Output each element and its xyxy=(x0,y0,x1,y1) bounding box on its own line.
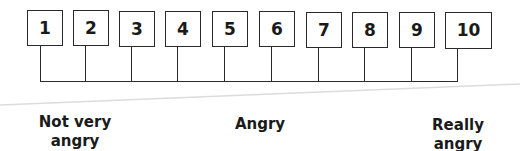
connector-stem xyxy=(271,47,272,81)
rating-value: 9 xyxy=(411,20,423,40)
anchor-high-line2: angry xyxy=(420,135,496,151)
connector-stem xyxy=(177,47,178,81)
rating-box-3[interactable]: 3 xyxy=(119,11,155,47)
anchor-mid-line1: Angry xyxy=(220,115,300,134)
connector-stem xyxy=(457,49,458,82)
rating-box-5[interactable]: 5 xyxy=(212,11,248,47)
anchor-low-line2: angry xyxy=(30,132,120,151)
rating-value: 3 xyxy=(131,19,143,39)
rating-box-8[interactable]: 8 xyxy=(352,12,388,48)
anchor-high-line1: Really xyxy=(420,116,496,135)
rating-box-1[interactable]: 1 xyxy=(27,10,63,46)
rating-box-9[interactable]: 9 xyxy=(399,12,435,48)
rating-box-4[interactable]: 4 xyxy=(165,11,201,47)
connector-baseline xyxy=(40,81,458,82)
anchor-label-mid: Angry xyxy=(220,115,300,134)
anchor-label-low: Not very angry xyxy=(30,113,120,151)
connector-stem xyxy=(318,48,319,81)
connector-stem xyxy=(411,48,412,82)
rating-value: 4 xyxy=(177,19,189,39)
rating-value: 5 xyxy=(224,19,236,39)
rating-value: 6 xyxy=(271,19,283,39)
connector-stem xyxy=(224,47,225,81)
anchor-label-high: Really angry xyxy=(420,116,496,151)
rating-box-7[interactable]: 7 xyxy=(306,12,342,48)
rating-value: 10 xyxy=(457,20,481,40)
connector-stem xyxy=(131,47,132,81)
connector-stem xyxy=(85,46,86,81)
rating-value: 2 xyxy=(85,18,97,38)
rating-box-6[interactable]: 6 xyxy=(259,11,295,47)
rating-value: 1 xyxy=(39,18,51,38)
rating-value: 7 xyxy=(318,20,330,40)
rating-box-10[interactable]: 10 xyxy=(445,12,492,49)
anchor-low-line1: Not very xyxy=(30,113,120,132)
rating-box-2[interactable]: 2 xyxy=(73,10,109,46)
connector-stem xyxy=(40,46,41,81)
rating-value: 8 xyxy=(364,20,376,40)
connector-stem xyxy=(364,48,365,82)
